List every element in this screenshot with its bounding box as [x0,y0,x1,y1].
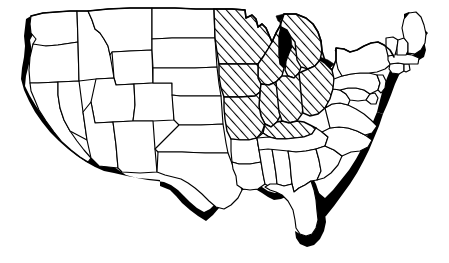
state-texas[interactable] [157,152,242,209]
state-connecticut[interactable] [389,63,404,74]
state-utah[interactable] [91,78,135,123]
state-wyoming[interactable] [112,50,153,85]
state-rhode-island[interactable] [404,64,410,72]
us-map-figure [0,0,449,263]
new-england-group [386,12,426,74]
state-north-dakota[interactable] [152,8,215,39]
state-oklahoma[interactable] [155,124,228,153]
state-florida[interactable] [265,181,318,236]
state-kansas[interactable] [172,95,223,125]
state-oregon[interactable] [29,42,79,83]
state-colorado[interactable] [133,83,174,121]
state-missouri[interactable] [224,92,265,140]
state-washington[interactable] [30,11,78,47]
us-map-svg [0,0,449,263]
state-new-mexico[interactable] [113,121,157,173]
state-south-dakota[interactable] [152,38,217,68]
state-iowa[interactable] [219,64,261,97]
state-arkansas[interactable] [231,138,261,164]
